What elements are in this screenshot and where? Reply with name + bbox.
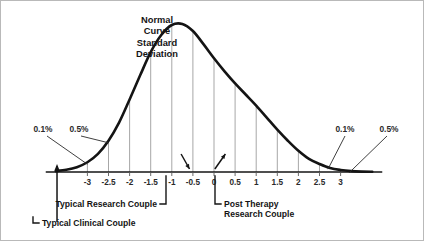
typical-clinical-couple-arrow-head	[54, 164, 59, 171]
x-axis-tick-label-2: -2	[126, 178, 134, 187]
pct-right-outer-leader-line	[349, 136, 387, 173]
pct-right-inner-leader-line	[328, 136, 345, 169]
typical-clinical-couple-connector	[33, 217, 39, 223]
x-axis-tick-label-5: -0.5	[186, 178, 201, 187]
x-axis-tick-label-4: -1	[168, 178, 176, 187]
typical-clinical-couple-label: Typical Clinical Couple	[42, 218, 136, 228]
figure-frame: -3-2.5-2-1.5-1-0.500.511.522.53NormalCur…	[0, 0, 424, 241]
chart-title-line-3: Deviation	[136, 49, 178, 59]
x-axis-tick-label-12: 3	[338, 178, 343, 187]
chart-title-line-0: Normal	[141, 15, 173, 25]
chart-title-line-1: Curve	[144, 26, 170, 36]
post-therapy-research-couple-label-line-1: Research Couple	[224, 209, 294, 219]
typical-research-couple-connector	[160, 176, 166, 204]
x-axis-tick-label-7: 0.5	[229, 178, 241, 187]
post-therapy-research-couple-label-line-0: Post Therapy	[224, 199, 279, 209]
pct-right-outer-label: 0.5%	[379, 124, 399, 134]
x-axis-tick-label-8: 1	[254, 178, 259, 187]
x-axis-tick-label-9: 1.5	[272, 178, 284, 187]
chart-title-line-2: Standard	[137, 38, 178, 48]
x-axis-tick-label-10: 2	[296, 178, 301, 187]
pct-right-inner-label: 0.1%	[335, 124, 355, 134]
x-axis-tick-label-1: -2.5	[101, 178, 116, 187]
x-axis-tick-label-6: 0	[212, 178, 217, 187]
x-axis-tick-label-11: 2.5	[314, 178, 326, 187]
typical-research-couple-label: Typical Research Couple	[55, 199, 157, 209]
pct-left-inner-leader-line	[81, 136, 109, 143]
x-axis-tick-label-3: -1.5	[144, 178, 159, 187]
x-axis-tick-label-0: -3	[84, 178, 92, 187]
normal-curve-chart: -3-2.5-2-1.5-1-0.500.511.522.53NormalCur…	[1, 1, 424, 241]
pct-left-inner-label: 0.5%	[69, 124, 89, 134]
pct-left-outer-leader-line	[47, 136, 87, 164]
pct-left-outer-label: 0.1%	[33, 124, 53, 134]
